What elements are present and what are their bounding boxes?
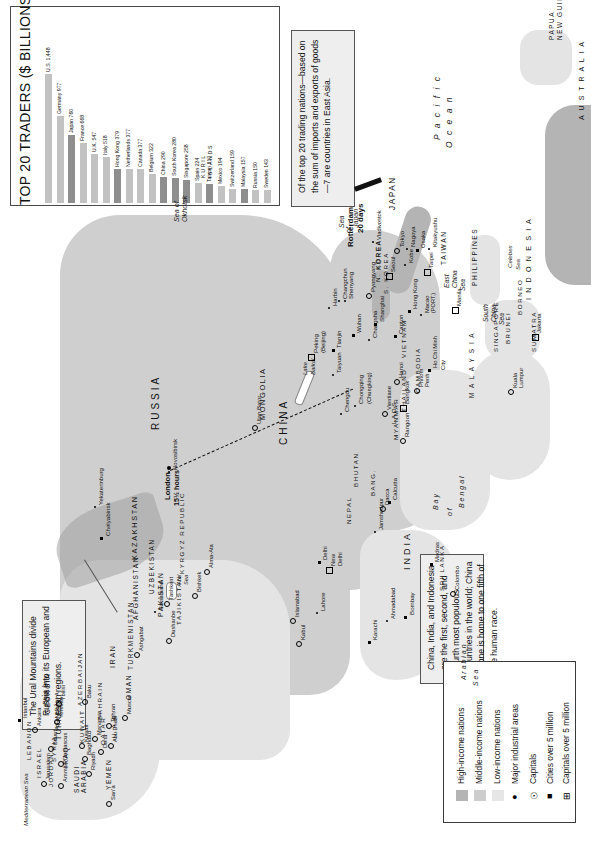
map-label: Tashkent <box>168 577 174 600</box>
map-marker-dot <box>340 413 342 415</box>
map-label: China <box>451 270 458 288</box>
map-label: Wuhan <box>356 314 362 333</box>
callout-east-asia: Of the top 20 trading nations—based on t… <box>291 30 355 207</box>
map-label: Celebes <box>506 245 513 268</box>
map-label: Karachi <box>372 620 378 640</box>
map-label: Penh <box>424 373 430 387</box>
map-label: Manila <box>456 288 462 306</box>
chart-bar-rect <box>264 190 271 203</box>
map-marker-dot <box>374 531 376 533</box>
map-label: Ahmadabad <box>390 588 396 619</box>
map-marker-dot <box>344 300 346 302</box>
map-marker-sq <box>18 719 21 722</box>
map-label: B e n g a l <box>458 476 465 508</box>
map-label: P a c i f i c <box>432 75 442 140</box>
map-label: Taipei <box>428 252 434 268</box>
chart-bar-label: China 290 <box>160 151 166 175</box>
map-marker-capsq <box>400 405 407 412</box>
chart-bar-label: U.K. 547 <box>91 132 97 152</box>
map-label: UZBEKISTAN <box>148 538 155 594</box>
legend-symbol-capitals: ☉ <box>530 792 538 801</box>
map-label: IRAN <box>108 644 117 668</box>
chart-bar-label: Italy 518 <box>102 135 108 155</box>
chart-bar-rect <box>80 143 87 203</box>
map-label: Japan <box>352 209 359 228</box>
map-marker-capsq <box>532 334 539 341</box>
map-label: Lumpur <box>518 368 524 388</box>
map-label: Osaka <box>420 231 426 248</box>
route-origin-label: London <box>163 472 172 500</box>
map-label: M A L A Y S I A <box>468 332 475 398</box>
map-marker-sq <box>394 335 397 338</box>
chart-bar-rect <box>68 135 75 203</box>
map-label: Ankara <box>36 708 42 726</box>
chart-bar-label: South Korea 280 <box>171 137 177 176</box>
chart-bar-rect <box>252 190 259 203</box>
legend-symbol-capitals-over-5-million: ⊞ <box>563 792 571 801</box>
map-marker-dot <box>368 339 370 341</box>
map-label: Tianjin <box>336 331 342 348</box>
map-label: Bangkok <box>404 381 410 404</box>
map-label: Kabul <box>300 625 306 640</box>
map-label: Dacca <box>384 489 390 505</box>
chart-bar-label: Belgium 322 <box>148 143 154 172</box>
chart-bar-rect <box>195 183 202 203</box>
map-label: TURKMENISTAN <box>127 601 134 670</box>
map-label: Baku <box>86 685 92 698</box>
legend-label-middle-income: Middle-income nations <box>474 700 484 784</box>
map-marker-dot <box>154 611 156 613</box>
map-label: Delhi <box>337 552 343 566</box>
map-label: Nagoya <box>410 226 416 247</box>
map-label: o f <box>446 508 453 516</box>
chart-bar-label: Malaysia 157 <box>240 156 246 187</box>
map-label: Canton <box>398 315 404 334</box>
map-label: Sea <box>498 313 505 325</box>
map-label: Peking <box>312 334 319 353</box>
map-label: (Beijing) <box>320 331 326 353</box>
map-label: Kitakyushu <box>432 218 438 247</box>
map-label: Alma-Ata <box>208 544 214 568</box>
map-label: East <box>443 274 450 288</box>
map-label: KAZAKHSTAN <box>130 495 139 560</box>
map-marker-sq <box>352 334 355 337</box>
chart-bar-label: Germany 977 <box>56 82 62 113</box>
map-label: S e a <box>472 670 479 686</box>
map-label: Yekaterinburg <box>98 468 104 505</box>
map-label: Sea <box>338 216 345 228</box>
map-label: Manama <box>96 713 102 735</box>
map-label: Sea <box>514 259 521 270</box>
map-label: Chelyabinsk <box>104 502 111 536</box>
map-label: Sea <box>183 575 189 585</box>
map-label: Ashgabat <box>138 627 144 652</box>
map-label: JAPAN <box>388 176 397 210</box>
map-label: Kuwait <box>83 725 89 742</box>
map-page: TOP 20 TRADERS ($ BILLIONS) U.S. 1,448Ge… <box>0 0 591 848</box>
map-label: Islamabad <box>294 590 300 617</box>
landmass-australia <box>545 105 591 285</box>
chart-bar-rect <box>126 169 133 203</box>
map-marker-dot <box>428 248 430 250</box>
map-label: Bishkek <box>196 572 202 592</box>
map-label: Shenyang <box>348 272 354 299</box>
map-marker-dot <box>332 374 334 376</box>
map-label: Harbin <box>332 288 338 306</box>
map-marker-sq <box>318 561 321 564</box>
chart-bars-area: U.S. 1,448Germany 977Japan 760France 668… <box>45 11 275 203</box>
map-label: New <box>330 554 336 566</box>
legend-label-low-income: Low-income nations <box>492 710 502 784</box>
map-label: Seoul <box>390 257 396 272</box>
map-label: NEW GUINEA <box>556 0 563 40</box>
map-marker-capsq <box>308 354 315 361</box>
map-label: PAPUA <box>548 11 555 40</box>
map-marker-dot <box>386 620 388 622</box>
chart-title: TOP 20 TRADERS ($ BILLIONS) <box>17 15 39 205</box>
map-marker-dot <box>354 405 356 407</box>
map-marker-capsq <box>424 269 431 276</box>
map-label: Muscat <box>126 695 132 714</box>
map-label: CHINA <box>278 399 289 445</box>
map-label: Madras <box>434 542 440 562</box>
map-label: Changsha <box>372 311 378 338</box>
legend-label-capitals: Capitals <box>528 754 538 784</box>
map-marker-capsq <box>452 307 459 314</box>
map-label: TAIWAN <box>440 230 447 265</box>
